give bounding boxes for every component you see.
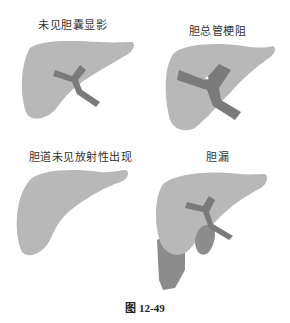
- liver-diagram: [0, 0, 145, 140]
- obstruction-point: [206, 77, 209, 80]
- panel-bile-leak: 胆漏: [145, 140, 290, 280]
- panel-no-biliary: 胆道未见放射性出现: [0, 140, 145, 280]
- figure-caption: 图 12-49: [0, 299, 290, 315]
- panel-no-gallbladder: 未见胆囊显影: [0, 0, 145, 140]
- liver-diagram: [0, 140, 145, 290]
- liver-diagram: [145, 0, 290, 140]
- liver-shape: [17, 170, 128, 255]
- liver-diagram: [145, 140, 290, 300]
- liver-shape: [166, 44, 275, 130]
- panel-cbd-obstruction: 胆总管梗阻: [145, 0, 290, 140]
